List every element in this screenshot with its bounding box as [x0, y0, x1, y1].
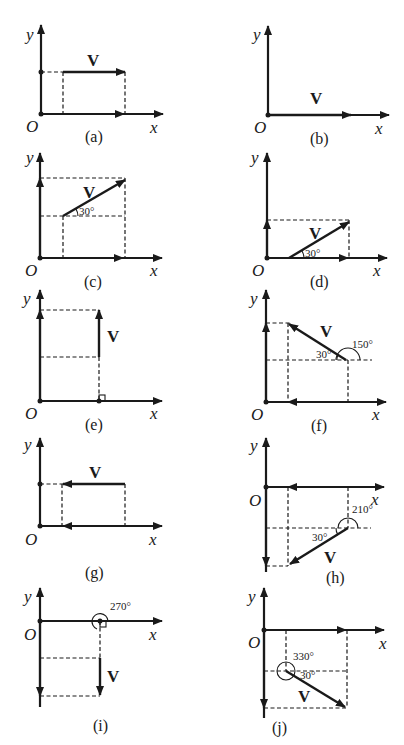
panel-d: 30° V y O x (d) — [249, 148, 387, 291]
x-axis-label: x — [371, 405, 380, 424]
x-axis-label: x — [149, 404, 158, 423]
origin-dot — [39, 112, 44, 117]
panel-f: 30° 150° V y O x (f) — [248, 289, 386, 435]
y-axis-label: y — [248, 436, 258, 455]
panel-e: V y O x (e) — [21, 289, 162, 434]
vector-label: V — [87, 51, 100, 70]
origin-dot — [265, 256, 270, 261]
vector-v — [286, 671, 345, 707]
vector-components-figure: V y O x (a) V y O x (b) 30° V y O x (c) — [0, 0, 404, 745]
vector-label: V — [309, 224, 322, 243]
origin-label: O — [251, 405, 263, 424]
x-axis-label: x — [372, 261, 381, 280]
panel-caption: (b) — [310, 130, 329, 148]
panel-h: 30° 210° V y O x (h) — [248, 436, 384, 587]
origin-dot — [264, 400, 269, 405]
panel-caption: (f) — [311, 417, 327, 435]
panel-caption: (j) — [272, 719, 287, 737]
vector-label: V — [320, 322, 333, 341]
origin-label: O — [254, 118, 266, 137]
panel-caption: (h) — [326, 569, 345, 587]
vector-label: V — [310, 89, 323, 108]
y-axis-label: y — [248, 289, 258, 308]
x-axis-label: x — [149, 261, 158, 280]
origin-dot — [266, 113, 271, 118]
x-axis-label: x — [148, 530, 157, 549]
x-axis-label: x — [149, 118, 158, 137]
origin-dot — [38, 256, 43, 261]
origin-dot — [262, 628, 267, 633]
origin-label: O — [248, 633, 260, 652]
panel-caption: (d) — [310, 273, 329, 291]
y-axis-label: y — [21, 289, 31, 308]
x-axis-label: x — [374, 119, 383, 138]
vector-label: V — [89, 463, 102, 482]
panel-a: V y O x (a) — [24, 25, 163, 146]
panel-caption: (a) — [85, 128, 103, 146]
panel-caption: (g) — [85, 564, 104, 582]
angle-label-330: 330° — [293, 650, 314, 662]
origin-dot — [264, 485, 269, 490]
panel-c: 30° V y O x (c) — [24, 148, 162, 291]
vector-label: V — [107, 327, 120, 346]
y-axis-label: y — [22, 587, 32, 606]
y-axis-label: y — [251, 25, 261, 44]
vector-label: V — [298, 687, 311, 706]
angle-label-210: 210° — [352, 503, 373, 515]
origin-dot — [38, 399, 43, 404]
y-axis-label: y — [24, 148, 34, 167]
y-axis-label: y — [24, 25, 34, 44]
panel-i: 270° V y O x (i) — [22, 587, 162, 735]
x-axis-label: x — [370, 490, 379, 509]
panel-b: V y O x (b) — [251, 25, 389, 148]
origin-label: O — [26, 117, 38, 136]
origin-label: O — [249, 491, 261, 510]
panel-caption: (i) — [93, 717, 108, 735]
angle-arc — [76, 209, 78, 216]
angle-label-270: 270° — [110, 600, 131, 612]
y-axis-label: y — [249, 148, 259, 167]
panel-g: V y O x (g) — [22, 435, 162, 582]
vector-label: V — [83, 183, 96, 202]
origin-label: O — [25, 404, 37, 423]
y-axis-label: y — [246, 587, 256, 606]
angle-label-30: 30° — [312, 531, 327, 543]
angle-label-30: 30° — [300, 669, 315, 681]
vector-label: V — [107, 667, 120, 686]
origin-label: O — [24, 625, 36, 644]
panel-j: 330° 30° V y O x (j) — [246, 587, 387, 737]
origin-label: O — [25, 530, 37, 549]
x-axis-label: x — [148, 625, 157, 644]
panel-caption: (e) — [85, 416, 103, 434]
angle-label: 30° — [79, 205, 94, 217]
origin-dot — [38, 524, 43, 529]
y-axis-label: y — [22, 435, 32, 454]
angle-label: 30° — [305, 247, 320, 259]
x-axis-label: x — [378, 634, 387, 653]
angle-label-30: 30° — [316, 348, 331, 360]
panel-caption: (c) — [84, 273, 102, 291]
origin-label: O — [252, 261, 264, 280]
origin-label: O — [25, 261, 37, 280]
vector-label: V — [324, 548, 337, 567]
angle-arc-30 — [337, 355, 338, 360]
origin-dot — [38, 619, 43, 624]
angle-label-150: 150° — [352, 338, 373, 350]
